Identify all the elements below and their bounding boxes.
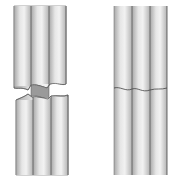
left-rod-top-segment — [14, 6, 66, 90]
fractured-and-joined-rods-diagram — [0, 0, 181, 185]
right-rod-joined — [114, 6, 167, 175]
left-rod-bottom-segment — [16, 94, 68, 175]
